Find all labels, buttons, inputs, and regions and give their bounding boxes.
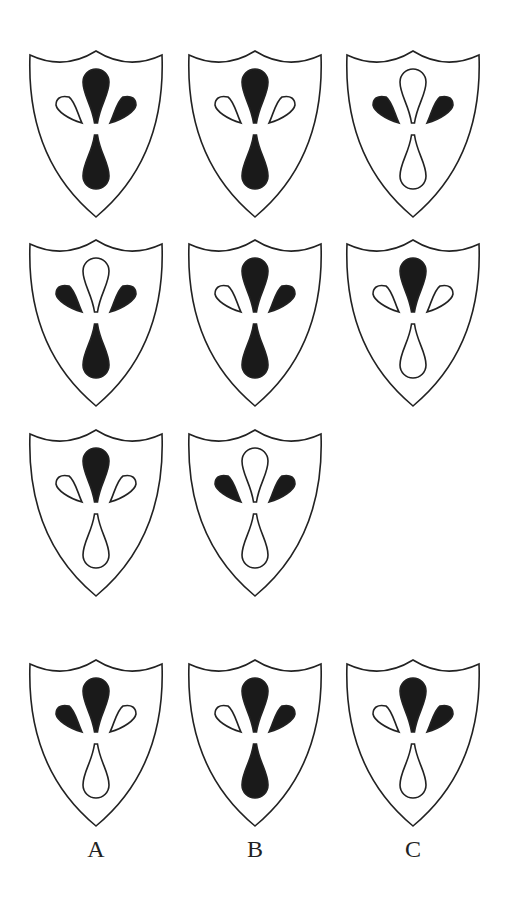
grid-shield-r2c1 <box>26 238 166 410</box>
option-shield-b[interactable] <box>185 658 325 830</box>
option-label-c[interactable]: C <box>343 836 483 863</box>
grid-shield-r1c2 <box>185 49 325 221</box>
grid-shield-r2c3 <box>343 238 483 410</box>
grid-shield-r3c1 <box>26 428 166 600</box>
option-label-a[interactable]: A <box>26 836 166 863</box>
grid-shield-r1c1 <box>26 49 166 221</box>
grid-shield-r2c2 <box>185 238 325 410</box>
option-shield-c[interactable] <box>343 658 483 830</box>
option-label-b[interactable]: B <box>185 836 325 863</box>
option-shield-a[interactable] <box>26 658 166 830</box>
grid-shield-r1c3 <box>343 49 483 221</box>
grid-shield-r3c2 <box>185 428 325 600</box>
